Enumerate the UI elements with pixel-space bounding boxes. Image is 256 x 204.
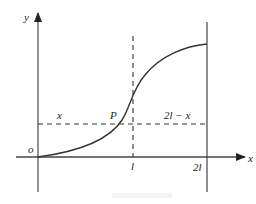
point-p-label: P	[109, 109, 117, 121]
diagram-canvas: y o x x P 2l − x l 2l	[0, 0, 256, 204]
x-axis-label: x	[247, 152, 253, 164]
segment-label-x: x	[56, 109, 62, 121]
faint-caption	[112, 193, 172, 198]
segment-label-2l-minus-x: 2l − x	[164, 109, 190, 121]
s-curve	[38, 44, 207, 157]
origin-label: o	[28, 143, 34, 155]
tick-label-2l: 2l	[193, 161, 202, 173]
y-axis-label: y	[23, 11, 29, 23]
tick-label-l: l	[131, 160, 134, 172]
